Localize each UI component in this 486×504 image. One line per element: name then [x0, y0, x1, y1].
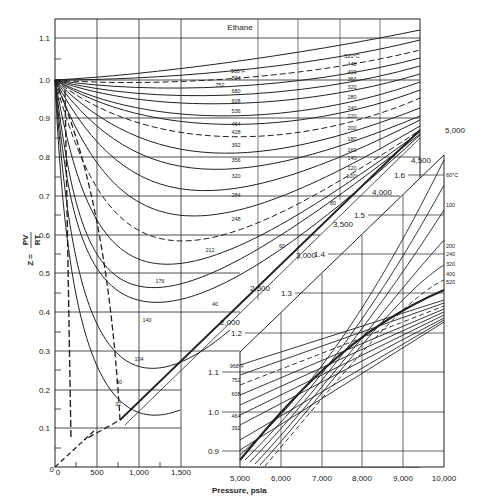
svg-text:0: 0: [50, 465, 55, 474]
ethane-compressibility-chart: Ethane 1.1 1.0 0.9 0.8 0.7 0.6 0.5 0.4 0…: [0, 0, 486, 504]
svg-text:140: 140: [347, 155, 356, 161]
svg-text:1.1: 1.1: [208, 368, 220, 377]
svg-text:Z =: Z =: [26, 254, 35, 266]
svg-text:8,000: 8,000: [352, 474, 373, 483]
svg-text:32: 32: [115, 401, 121, 407]
chart-title: Ethane: [227, 23, 253, 32]
svg-text:248: 248: [231, 216, 240, 222]
svg-text:400: 400: [347, 69, 356, 75]
svg-text:1,000: 1,000: [129, 468, 150, 477]
svg-text:0.2: 0.2: [39, 386, 51, 395]
svg-text:9,000: 9,000: [393, 474, 414, 483]
svg-text:1.2: 1.2: [231, 329, 243, 338]
svg-text:60: 60: [279, 243, 285, 249]
svg-text:752: 752: [215, 82, 224, 88]
svg-text:400: 400: [446, 271, 455, 277]
svg-text:200: 200: [347, 125, 356, 131]
svg-text:40: 40: [212, 301, 218, 307]
svg-text:284: 284: [231, 192, 240, 198]
svg-text:428: 428: [231, 129, 240, 135]
svg-text:240: 240: [347, 105, 356, 111]
inset-x-labels: 5,000 6,000 7,000 8,000 9,000 10,000: [230, 474, 457, 483]
svg-text:5,000: 5,000: [230, 474, 251, 483]
svg-text:500: 500: [90, 468, 104, 477]
svg-text:752: 752: [231, 377, 240, 383]
svg-text:4,000: 4,000: [372, 188, 393, 197]
svg-text:392: 392: [231, 142, 240, 148]
svg-text:1.3: 1.3: [281, 289, 293, 298]
svg-text:680: 680: [231, 88, 240, 94]
svg-text:320: 320: [446, 261, 455, 267]
svg-text:520°C: 520°C: [344, 53, 359, 59]
fahrenheit-labels: 968°F 824 752 680 608 536 464 428 392 35…: [115, 68, 246, 407]
svg-text:1.5: 1.5: [354, 211, 366, 220]
svg-text:90: 90: [116, 379, 122, 385]
svg-text:200: 200: [446, 243, 455, 249]
y-axis-title: Z = PV RT: [21, 232, 42, 266]
svg-text:240: 240: [446, 251, 455, 257]
svg-text:0.7: 0.7: [39, 192, 51, 201]
svg-text:968°F: 968°F: [230, 363, 245, 369]
svg-text:1.0: 1.0: [208, 408, 220, 417]
svg-text:464: 464: [231, 413, 240, 419]
svg-text:PV: PV: [21, 234, 30, 245]
svg-text:176: 176: [155, 278, 164, 284]
svg-text:60°C: 60°C: [446, 172, 458, 178]
svg-text:360: 360: [347, 76, 356, 82]
x-axis-title: Pressure, psia: [212, 486, 267, 495]
svg-text:824: 824: [231, 75, 240, 81]
svg-text:440: 440: [347, 61, 356, 67]
svg-text:0.9: 0.9: [39, 114, 51, 123]
svg-text:180: 180: [347, 136, 356, 142]
svg-text:140: 140: [142, 317, 151, 323]
svg-text:RT: RT: [33, 235, 42, 246]
svg-text:1.6: 1.6: [394, 171, 406, 180]
svg-text:6,000: 6,000: [271, 474, 292, 483]
y-axis-labels: 1.1 1.0 0.9 0.8 0.7 0.6 0.5 0.4 0.3 0.2 …: [39, 34, 55, 474]
svg-text:392: 392: [231, 425, 240, 431]
svg-text:1,500: 1,500: [171, 468, 192, 477]
svg-text:0.4: 0.4: [39, 308, 51, 317]
svg-text:220: 220: [347, 113, 356, 119]
x-axis-labels: 0 500 1,000 1,500: [56, 468, 192, 477]
inset-right-C-labels: 60°C 100 200 240 320 400 520: [446, 172, 458, 285]
svg-text:1.0: 1.0: [39, 76, 51, 85]
svg-text:356: 356: [231, 157, 240, 163]
svg-text:0.1: 0.1: [39, 424, 51, 433]
svg-text:212: 212: [205, 247, 214, 253]
svg-text:536: 536: [231, 108, 240, 114]
svg-text:520: 520: [446, 279, 455, 285]
svg-text:0.8: 0.8: [39, 153, 51, 162]
svg-text:3,500: 3,500: [333, 220, 354, 229]
svg-text:2,500: 2,500: [250, 284, 271, 293]
svg-text:320: 320: [347, 84, 356, 90]
svg-text:0.3: 0.3: [39, 347, 51, 356]
svg-text:608: 608: [231, 98, 240, 104]
svg-text:320: 320: [231, 173, 240, 179]
svg-text:10,000: 10,000: [432, 474, 457, 483]
svg-text:100°: 100°: [346, 173, 357, 179]
svg-text:160: 160: [347, 147, 356, 153]
svg-text:280: 280: [347, 94, 356, 100]
svg-text:80: 80: [330, 200, 336, 206]
svg-text:968°F: 968°F: [231, 68, 246, 74]
svg-text:0.5: 0.5: [39, 269, 51, 278]
svg-text:0.9: 0.9: [208, 447, 220, 456]
svg-text:120: 120: [347, 165, 356, 171]
svg-text:608: 608: [231, 391, 240, 397]
svg-text:0: 0: [56, 468, 61, 477]
svg-text:4,500: 4,500: [411, 156, 432, 165]
svg-text:100: 100: [446, 202, 455, 208]
svg-text:7,000: 7,000: [312, 474, 333, 483]
svg-text:104: 104: [134, 356, 143, 362]
svg-text:1.1: 1.1: [39, 34, 51, 43]
svg-text:5,000: 5,000: [445, 126, 466, 135]
svg-text:1.4: 1.4: [314, 250, 326, 259]
svg-text:464: 464: [231, 121, 240, 127]
svg-text:2,000: 2,000: [220, 318, 241, 327]
